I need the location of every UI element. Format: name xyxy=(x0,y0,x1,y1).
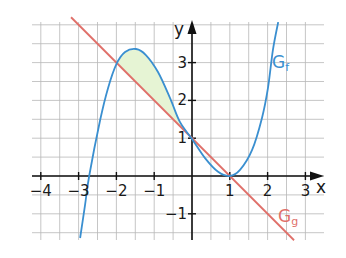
svg-text:−4: −4 xyxy=(30,182,52,200)
svg-text:3: 3 xyxy=(301,182,311,200)
svg-text:1: 1 xyxy=(177,129,187,147)
svg-text:3: 3 xyxy=(177,54,187,72)
svg-text:−2: −2 xyxy=(105,182,127,200)
y-axis-label: y xyxy=(174,19,184,39)
svg-text:−1: −1 xyxy=(165,205,187,223)
line-g-label: Gg xyxy=(278,206,298,228)
svg-text:2: 2 xyxy=(177,91,187,109)
svg-text:−3: −3 xyxy=(68,182,90,200)
svg-text:1: 1 xyxy=(225,182,235,200)
svg-text:2: 2 xyxy=(263,182,273,200)
curve-f-label: Gf xyxy=(272,52,290,74)
x-axis-label: x xyxy=(316,177,326,197)
svg-text:−1: −1 xyxy=(143,182,165,200)
function-graph: −4−3−2−1123−1123 y x Gf Gg xyxy=(0,0,346,258)
